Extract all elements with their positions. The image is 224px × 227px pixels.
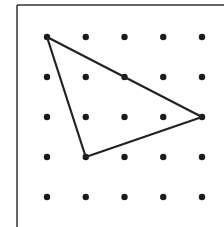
grid-dot bbox=[160, 114, 166, 120]
grid-dot bbox=[83, 34, 89, 40]
grid-dot bbox=[199, 34, 205, 40]
geoboard-diagram bbox=[0, 0, 224, 227]
dot-grid bbox=[44, 34, 205, 200]
grid-dot bbox=[160, 34, 166, 40]
grid-dot bbox=[160, 194, 166, 200]
grid-dot bbox=[199, 74, 205, 80]
grid-dot bbox=[44, 194, 50, 200]
grid-dot bbox=[121, 194, 127, 200]
grid-dot bbox=[199, 154, 205, 160]
grid-dot bbox=[83, 194, 89, 200]
grid-dot bbox=[44, 154, 50, 160]
triangle-outline bbox=[47, 37, 202, 157]
grid-dot bbox=[83, 74, 89, 80]
grid-dot bbox=[121, 154, 127, 160]
grid-dot bbox=[160, 154, 166, 160]
grid-dot bbox=[121, 114, 127, 120]
grid-dot bbox=[44, 74, 50, 80]
grid-dot bbox=[160, 74, 166, 80]
grid-dot bbox=[121, 34, 127, 40]
grid-dot bbox=[83, 114, 89, 120]
grid-dot bbox=[199, 194, 205, 200]
grid-dot bbox=[44, 114, 50, 120]
triangle bbox=[47, 37, 202, 157]
